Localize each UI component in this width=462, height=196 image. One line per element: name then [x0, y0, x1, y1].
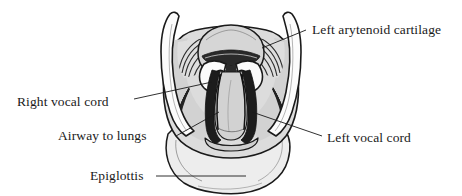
label-epiglottis: Epiglottis [90, 168, 144, 184]
label-right-vocal-cord: Right vocal cord [17, 94, 109, 110]
label-left-vocal-cord: Left vocal cord [327, 130, 411, 146]
label-airway-to-lungs: Airway to lungs [58, 128, 147, 144]
label-left-arytenoid-cartilage: Left arytenoid cartilage [312, 22, 441, 38]
figure-canvas: Left arytenoid cartilage Right vocal cor… [0, 0, 462, 196]
